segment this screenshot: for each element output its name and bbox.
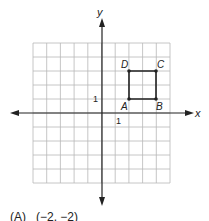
y-axis — [99, 18, 105, 206]
label-b: B — [156, 101, 163, 112]
x-axis-left-arrow-icon — [10, 110, 19, 116]
label-a: A — [120, 101, 128, 112]
answer-choice-a: (A) (−2, −2) — [10, 210, 78, 221]
y-axis-label: y — [96, 6, 104, 18]
x-tick-label: 1 — [116, 116, 121, 126]
y-tick-label: 1 — [93, 94, 98, 104]
y-axis-up-arrow-icon — [99, 18, 105, 27]
x-axis-label: x — [194, 107, 201, 119]
label-d: D — [121, 59, 128, 70]
coordinate-plane: x y 1 1 A B C D — [0, 0, 209, 221]
point-a — [127, 97, 131, 101]
y-axis-down-arrow-icon — [99, 197, 105, 206]
label-c: C — [157, 59, 165, 70]
x-axis-right-arrow-icon — [185, 110, 194, 116]
